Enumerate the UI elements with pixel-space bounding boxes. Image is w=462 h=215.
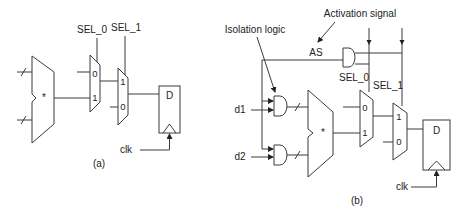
diagram-canvas: * 0 1 SEL_0 1 0 SEL_1 D (0, 0, 462, 215)
mux1-b-input-0: 0 (396, 136, 401, 147)
ff-b-d-label: D (433, 125, 440, 136)
multiplier-symbol: * (42, 92, 46, 103)
mux0-b-input-1: 1 (362, 127, 367, 138)
flipflop-a: D clk (120, 86, 180, 155)
multiplier-b: * (308, 90, 333, 177)
mux0-input-0: 0 (92, 68, 97, 79)
multiplier-symbol-b: * (321, 127, 325, 138)
multiplier-a: * (32, 56, 54, 143)
activation-and-gate (343, 48, 402, 67)
mux0-b-input-0: 0 (362, 102, 367, 113)
sel1-label: SEL_1 (111, 22, 141, 33)
mux1-b-input-1: 1 (396, 111, 401, 122)
caption-b: (b) (351, 195, 363, 206)
isolation-arrow (257, 37, 275, 92)
as-label: AS (309, 47, 323, 58)
sel0-label-b: SEL_0 (339, 72, 369, 83)
isolation-and-gate-2 (274, 145, 308, 165)
mux1-input-0: 0 (120, 101, 125, 112)
mux1-input-1: 1 (120, 76, 125, 87)
d2-label: d2 (234, 151, 246, 162)
caption-a: (a) (93, 158, 105, 169)
d1-label: d1 (234, 104, 246, 115)
figure-a: * 0 1 SEL_0 1 0 SEL_1 D (17, 22, 180, 169)
mux1-b: 1 0 (383, 103, 407, 160)
input-bus-bottom (17, 116, 32, 124)
mux0-b: 0 1 (343, 90, 373, 147)
activation-arrow (318, 22, 335, 42)
mux0-input-1: 1 (92, 92, 97, 103)
ff-d-label: D (166, 90, 173, 101)
activation-signal-label: Activation signal (324, 8, 396, 19)
isolation-logic-label: Isolation logic (225, 24, 286, 35)
isolation-and-gate-1 (274, 96, 308, 116)
clk-label-b: clk (396, 181, 409, 192)
mux1-a: 1 0 SEL_1 (110, 22, 141, 125)
mux0-a: 0 1 SEL_0 (77, 24, 107, 112)
sel1-label-b: SEL_1 (373, 80, 403, 91)
sel0-label: SEL_0 (77, 24, 107, 35)
figure-b: Isolation logic Activation signal AS SEL… (225, 8, 450, 206)
clk-label: clk (120, 144, 133, 155)
input-bus-top (17, 68, 32, 76)
